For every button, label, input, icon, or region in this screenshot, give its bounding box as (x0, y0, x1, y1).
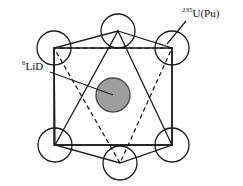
vertex-circle-bottom (103, 146, 137, 180)
lattice-diagram (0, 0, 243, 186)
label-u235-superscript: 235 (182, 6, 193, 14)
vertex-circle-top (101, 14, 135, 48)
vertex-circle-lower-right (155, 128, 189, 162)
label-uranium-plutonium: 235U(Pu) (182, 8, 219, 19)
label-u235-text: U(Pu) (193, 7, 220, 19)
vertex-circle-upper-right (155, 31, 189, 65)
figure-canvas: 6LiD 235U(Pu) (0, 0, 243, 186)
label-lithium-deuteride: 6LiD (22, 61, 43, 72)
vertex-circle-lower-left (38, 128, 72, 162)
label-lid-text: LiD (26, 60, 44, 72)
